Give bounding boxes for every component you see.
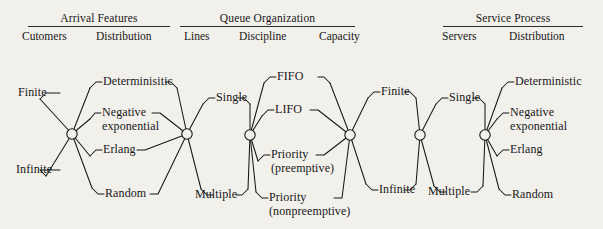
- node-arrival-customers[interactable]: [67, 129, 77, 139]
- label-erlang-arrival[interactable]: Erlang: [103, 143, 136, 157]
- wire-det-2-out: [485, 88, 502, 135]
- wire-fifo-in-stub: [318, 77, 330, 83]
- wire-det-2-stub: [502, 82, 514, 88]
- label-deterministic-arrival[interactable]: Determinisitic: [103, 75, 173, 89]
- label-priority-preemptive[interactable]: Priority (preemptive): [271, 148, 371, 175]
- label-random-arrival[interactable]: Random: [105, 187, 146, 201]
- label-multiple-servers[interactable]: Multiple: [428, 185, 470, 199]
- wire-rnd-1-stub: [92, 188, 104, 194]
- label-fifo[interactable]: FIFO: [277, 70, 303, 84]
- label-infinite-capacity[interactable]: Infinite: [379, 183, 415, 197]
- wire-det-1-stub: [90, 82, 102, 88]
- header-rule-queue-organization: [180, 26, 355, 27]
- wire-multiple-1-in-stub: [236, 189, 248, 195]
- subheading-servers: Servers: [442, 30, 477, 42]
- wire-finite-2-stub: [368, 92, 380, 98]
- wire-rnd-2-stub: [499, 189, 511, 195]
- wire-rnd-2-out: [485, 135, 499, 189]
- label-negative-exponential-service-line1: Negative: [510, 105, 554, 119]
- label-single-servers[interactable]: Single: [449, 91, 480, 105]
- label-deterministic-service[interactable]: Deterministic: [515, 75, 582, 89]
- label-single-lines[interactable]: Single: [216, 91, 247, 105]
- wire-erl-1-in: [137, 134, 187, 150]
- label-negative-exponential-arrival-line2: exponential: [102, 120, 194, 134]
- subheading-service-distribution: Distribution: [509, 30, 565, 42]
- label-priority-preemptive-line1: Priority: [271, 147, 308, 161]
- wire-infinite-2-stub: [366, 184, 378, 190]
- header-title-queue-organization: Queue Organization: [180, 12, 355, 24]
- node-queue-discipline[interactable]: [345, 130, 355, 140]
- wire-finite-1-in: [40, 99, 72, 134]
- label-priority-nonpreemptive-line2: (nonpreemptive): [269, 205, 394, 219]
- wire-lifo-stub: [262, 110, 274, 116]
- wire-neg-1-stub: [90, 113, 101, 119]
- wire-single-1-stub: [203, 98, 215, 104]
- wire-multiple-2-in-stub: [471, 186, 483, 192]
- node-queue-capacity[interactable]: [415, 130, 425, 140]
- label-priority-preemptive-line2: (preemptive): [271, 162, 371, 176]
- wire-rnd-1-in: [150, 134, 187, 194]
- subheading-cutomers: Cutomers: [22, 30, 67, 42]
- subheading-arrival-distribution: Distribution: [96, 30, 152, 42]
- wire-erl-2-stub: [497, 150, 509, 156]
- label-negative-exponential-arrival-line1: Negative: [102, 105, 146, 119]
- label-negative-exponential-arrival[interactable]: Negative exponential: [102, 106, 194, 133]
- wire-single-2-stub: [436, 98, 448, 104]
- wire-infinite-2-in: [416, 135, 420, 184]
- diagram-canvas: Arrival Features Cutomers Distribution Q…: [0, 0, 603, 229]
- label-finite-capacity[interactable]: Finite: [381, 85, 410, 99]
- wire-lifo-in: [310, 110, 350, 135]
- wire-erl-1-stub: [90, 150, 102, 156]
- wire-multiple-2-out: [420, 135, 434, 186]
- label-finite-customers[interactable]: Finite: [18, 86, 47, 100]
- node-queue-lines[interactable]: [245, 130, 255, 140]
- header-group-service-process: Service Process Servers Distribution: [443, 12, 583, 46]
- wire-prio-non-stub: [256, 192, 268, 198]
- wire-prio-pre-stub: [258, 155, 270, 161]
- label-erlang-service[interactable]: Erlang: [510, 143, 543, 157]
- label-negative-exponential-service-line2: exponential: [510, 120, 602, 134]
- header-title-arrival-features: Arrival Features: [28, 12, 170, 24]
- label-priority-nonpreemptive[interactable]: Priority (nonpreemptive): [269, 191, 394, 218]
- label-lifo[interactable]: LIFO: [275, 103, 302, 117]
- label-random-service[interactable]: Random: [512, 188, 553, 202]
- label-multiple-lines[interactable]: Multiple: [195, 188, 237, 202]
- header-group-queue-organization: Queue Organization Lines Discipline Capa…: [180, 12, 355, 46]
- subheading-lines: Lines: [184, 30, 210, 42]
- header-title-service-process: Service Process: [443, 12, 583, 24]
- wire-multiple-2-in: [483, 135, 485, 186]
- wire-fifo-out: [250, 83, 264, 135]
- label-negative-exponential-service[interactable]: Negative exponential: [510, 106, 602, 133]
- subheading-capacity: Capacity: [319, 30, 360, 42]
- label-infinite-customers[interactable]: Infinite: [16, 163, 52, 177]
- header-group-arrival-features: Arrival Features Cutomers Distribution: [28, 12, 170, 46]
- label-priority-nonpreemptive-line1: Priority: [269, 190, 306, 204]
- subheading-discipline: Discipline: [239, 30, 286, 42]
- wire-multiple-1-in: [248, 135, 250, 189]
- wire-multiple-1-out: [187, 134, 201, 189]
- wire-fifo-stub: [264, 77, 276, 83]
- wire-rnd-1-out: [72, 134, 92, 188]
- wire-finite-2-out: [350, 98, 368, 135]
- header-rule-service-process: [443, 26, 583, 27]
- header-rule-arrival-features: [28, 26, 170, 27]
- node-service-servers[interactable]: [480, 130, 490, 140]
- wire-neg-2-stub: [497, 113, 509, 119]
